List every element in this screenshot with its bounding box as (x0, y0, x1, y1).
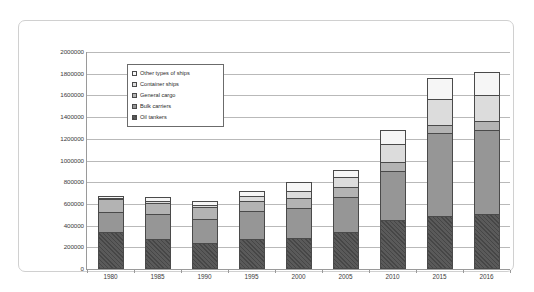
x-axis-tick-mark (463, 270, 464, 273)
bar-segment[interactable] (380, 144, 406, 162)
bar-segment[interactable] (427, 78, 453, 99)
bar-segment[interactable] (192, 207, 218, 218)
bar-segment[interactable] (239, 239, 265, 269)
bar-segment[interactable] (474, 121, 500, 129)
bar-segment[interactable] (239, 201, 265, 211)
x-axis-tick-mark (275, 270, 276, 273)
x-axis-tick-label: 2000 (277, 274, 321, 280)
x-axis-tick-label: 1980 (89, 274, 133, 280)
legend-item[interactable]: Other types of ships (132, 68, 219, 79)
legend-item-label: General cargo (140, 93, 175, 99)
bar-segment[interactable] (474, 130, 500, 215)
bar-segment[interactable] (145, 239, 171, 269)
y-axis-tick-label: 0 (26, 266, 84, 272)
x-axis-tick-label: 2005 (324, 274, 368, 280)
bar-segment[interactable] (474, 214, 500, 269)
legend-swatch-icon (132, 104, 137, 109)
bar-segment[interactable] (98, 232, 124, 269)
bar-segment[interactable] (239, 211, 265, 239)
x-axis-tick-mark (228, 270, 229, 273)
y-axis-tick-label: 200000 (26, 244, 84, 250)
x-axis-tick-label: 1985 (136, 274, 180, 280)
gridline (87, 269, 510, 270)
y-axis-tick-label: 1000000 (26, 158, 84, 164)
bar-segment[interactable] (380, 171, 406, 220)
x-axis-tick-mark (369, 270, 370, 273)
legend-swatch-icon (132, 71, 137, 76)
bar-segment[interactable] (192, 219, 218, 244)
stacked-bar[interactable] (474, 72, 500, 269)
stacked-bar[interactable] (286, 182, 312, 269)
legend-item-label: Bulk carriers (140, 104, 171, 110)
bar-segment[interactable] (145, 203, 171, 215)
stacked-bar[interactable] (333, 170, 359, 269)
legend-item[interactable]: Bulk carriers (132, 101, 219, 112)
legend-swatch-icon (132, 93, 137, 98)
bar-segment[interactable] (380, 162, 406, 171)
x-axis-tick-mark (134, 270, 135, 273)
legend-swatch-icon (132, 115, 137, 120)
x-axis-tick-mark (510, 270, 511, 273)
stacked-bar[interactable] (380, 130, 406, 269)
bar-segment[interactable] (286, 238, 312, 269)
bar-segment[interactable] (333, 197, 359, 232)
bar-segment[interactable] (474, 95, 500, 121)
bar-segment[interactable] (427, 99, 453, 125)
stacked-bar[interactable] (145, 197, 171, 269)
bar-segment[interactable] (333, 177, 359, 188)
bar-segment[interactable] (427, 133, 453, 215)
x-axis-tick-mark (87, 270, 88, 273)
legend-item[interactable]: General cargo (132, 90, 219, 101)
bar-segment[interactable] (333, 170, 359, 177)
legend-item[interactable]: Container ships (132, 79, 219, 90)
stacked-bar[interactable] (427, 78, 453, 269)
bar-segment[interactable] (427, 216, 453, 269)
bar-segment[interactable] (98, 212, 124, 232)
chart-frame: 0200000400000600000800000100000012000001… (18, 20, 514, 272)
bar-segment[interactable] (286, 182, 312, 190)
legend-item-label: Oil tankers (140, 115, 167, 121)
legend-item[interactable]: Oil tankers (132, 112, 219, 123)
y-axis-tick-label: 1600000 (26, 92, 84, 98)
y-axis-tick-label: 1800000 (26, 71, 84, 77)
bar-segment[interactable] (286, 208, 312, 238)
bar-segment[interactable] (286, 191, 312, 198)
x-axis-tick-label: 2010 (371, 274, 415, 280)
bar-segment[interactable] (380, 220, 406, 269)
x-axis-tick-label: 2016 (465, 274, 509, 280)
stacked-bar[interactable] (239, 191, 265, 269)
y-axis-tick-label: 600000 (26, 201, 84, 207)
bar-segment[interactable] (474, 72, 500, 95)
bar-segment[interactable] (333, 187, 359, 197)
gridline (87, 52, 510, 53)
bar-segment[interactable] (333, 232, 359, 269)
chart-legend: Other types of shipsContainer shipsGener… (127, 64, 224, 127)
x-axis-tick-label: 1995 (230, 274, 274, 280)
y-axis-tick-label: 800000 (26, 179, 84, 185)
bar-segment[interactable] (286, 198, 312, 209)
bar-segment[interactable] (427, 125, 453, 133)
legend-swatch-icon (132, 82, 137, 87)
bar-segment[interactable] (145, 214, 171, 238)
bar-segment[interactable] (98, 199, 124, 212)
x-axis-tick-label: 2015 (418, 274, 462, 280)
legend-item-label: Container ships (140, 82, 179, 88)
y-axis-tick-label: 1400000 (26, 114, 84, 120)
legend-item-label: Other types of ships (140, 71, 190, 77)
x-axis-tick-mark (322, 270, 323, 273)
stacked-bar[interactable] (98, 196, 124, 269)
x-axis-tick-mark (416, 270, 417, 273)
x-axis-tick-mark (181, 270, 182, 273)
y-axis-labels: 0200000400000600000800000100000012000001… (22, 21, 84, 292)
y-axis-tick-label: 400000 (26, 223, 84, 229)
y-axis-tick-label: 1200000 (26, 136, 84, 142)
stacked-bar[interactable] (192, 201, 218, 269)
bar-segment[interactable] (380, 130, 406, 144)
bar-segment[interactable] (192, 243, 218, 269)
y-axis-tick-label: 2000000 (26, 49, 84, 55)
x-axis-tick-label: 1990 (183, 274, 227, 280)
